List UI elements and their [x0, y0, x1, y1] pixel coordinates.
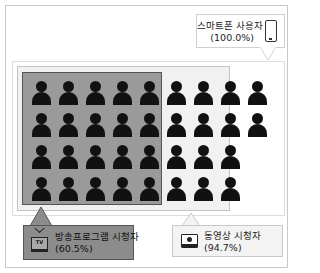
person-icon	[109, 78, 136, 110]
person-icon	[109, 110, 136, 142]
person-icon	[28, 142, 55, 174]
person-icon	[244, 110, 271, 142]
person-icon	[190, 174, 217, 206]
person-icon	[217, 142, 244, 174]
tv-viewers-callout: 방송프로그램 시청자 (60.5%) TV	[23, 225, 134, 260]
person-icon	[163, 78, 190, 110]
person-icon	[136, 142, 163, 174]
person-icon	[190, 142, 217, 174]
person-icon	[28, 78, 55, 110]
tv-callout-pointer	[30, 207, 52, 226]
person-icon	[82, 78, 109, 110]
person-icon	[28, 174, 55, 206]
person-icon	[82, 142, 109, 174]
person-icon	[55, 110, 82, 142]
video-viewers-callout: 동영상 시청자 (94.7%)	[172, 225, 283, 257]
video-viewers-label: 동영상 시청자	[204, 230, 282, 242]
tv-icon: TV	[31, 237, 48, 250]
person-icon	[190, 110, 217, 142]
video-player-icon	[181, 234, 198, 248]
person-icon	[109, 142, 136, 174]
person-icon	[163, 174, 190, 206]
video-viewers-value: (94.7%)	[204, 242, 282, 254]
person-icon	[82, 174, 109, 206]
person-icon	[163, 110, 190, 142]
person-icon	[136, 78, 163, 110]
smartphone-users-label: 스마트폰 사용자	[197, 20, 254, 32]
smartphone-callout-pointer	[260, 47, 276, 61]
people-grid	[28, 78, 271, 206]
person-icon	[28, 110, 55, 142]
person-icon	[136, 174, 163, 206]
person-icon	[217, 110, 244, 142]
person-icon	[163, 142, 190, 174]
smartphone-icon	[265, 20, 277, 42]
person-icon	[55, 174, 82, 206]
tv-viewers-label: 방송프로그램 시청자	[55, 231, 133, 243]
person-icon	[109, 174, 136, 206]
person-icon	[55, 78, 82, 110]
person-icon	[82, 110, 109, 142]
tv-stand	[31, 250, 48, 252]
person-icon	[217, 174, 244, 206]
person-icon	[55, 142, 82, 174]
smartphone-users-value: (100.0%)	[197, 32, 254, 44]
smartphone-users-callout: 스마트폰 사용자 (100.0%)	[196, 14, 285, 48]
person-icon	[244, 78, 271, 110]
tv-viewers-value: (60.5%)	[55, 243, 133, 255]
person-icon	[136, 110, 163, 142]
person-icon	[217, 78, 244, 110]
person-icon	[190, 78, 217, 110]
